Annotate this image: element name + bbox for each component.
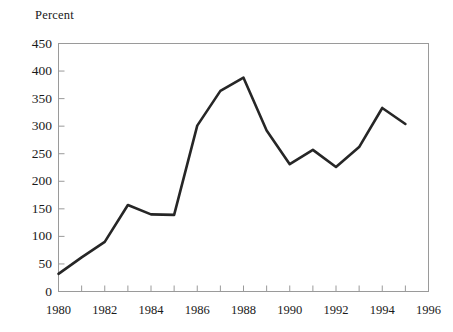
y-axis-ticks	[59, 71, 65, 264]
plot-area	[0, 0, 453, 332]
line-chart: Percent 050100150200250300350400450 1980…	[0, 0, 453, 332]
x-axis-ticks	[82, 286, 406, 292]
data-series-line	[59, 78, 406, 274]
